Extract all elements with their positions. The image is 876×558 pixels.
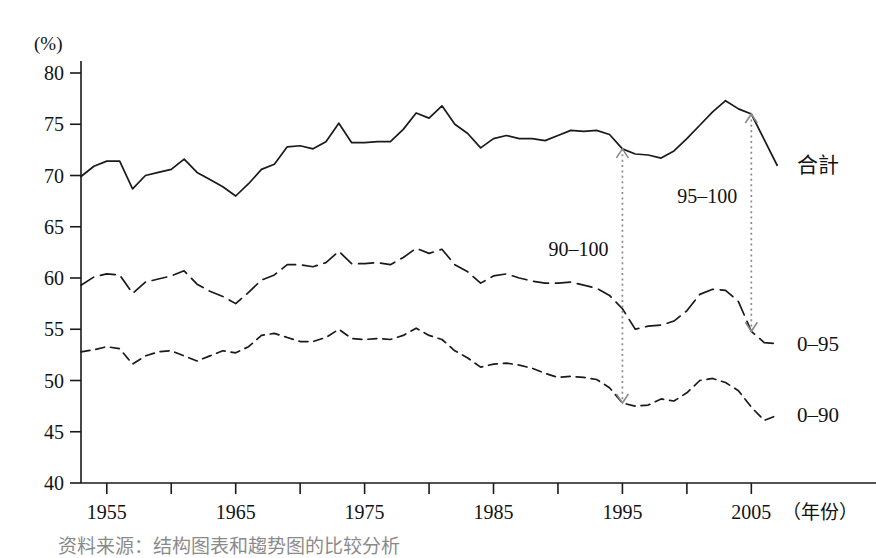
x-tick-label: 2005: [731, 501, 771, 523]
x-axis-ticks: 195519651975198519952005: [87, 483, 772, 523]
figure-caption: 资料来源：结构图表和趨势图的比较分析: [0, 536, 876, 558]
y-tick-label: 65: [44, 216, 64, 238]
annotation-label-1: 95–100: [677, 185, 737, 207]
annotation-arrowhead-bottom-1: [745, 322, 757, 331]
y-tick-label: 80: [44, 62, 64, 84]
caption-text: 资料来源：结构图表和趨势图的比较分析: [58, 536, 400, 558]
line-chart: 404550556065707580 195519651975198519952…: [0, 0, 876, 558]
x-axis-unit-label: （年份）: [782, 501, 858, 523]
series-line-1: [81, 248, 777, 343]
y-tick-label: 70: [44, 165, 64, 187]
series-labels: 合計0–950–90: [797, 153, 839, 427]
y-tick-label: 55: [44, 318, 64, 340]
x-tick-label: 1975: [345, 501, 385, 523]
y-tick-label: 40: [44, 472, 64, 494]
y-axis-unit-label: (%): [34, 33, 62, 55]
y-tick-label: 45: [44, 421, 64, 443]
x-tick-label: 1995: [602, 501, 642, 523]
x-tick-label: 1955: [87, 501, 127, 523]
y-axis-ticks: 404550556065707580: [44, 62, 81, 494]
annotation-arrowhead-top-1: [745, 114, 757, 123]
data-series: [81, 101, 777, 421]
x-tick-label: 1965: [216, 501, 256, 523]
chart-container: 404550556065707580 195519651975198519952…: [0, 0, 876, 558]
annotation-label-0: 90–100: [548, 238, 608, 260]
y-tick-label: 60: [44, 267, 64, 289]
y-tick-label: 75: [44, 113, 64, 135]
series-line-0: [81, 101, 777, 196]
series-line-2: [81, 328, 777, 420]
series-label-2: 0–90: [797, 403, 839, 427]
x-tick-label: 1985: [474, 501, 514, 523]
annotations: 90–10095–100: [548, 114, 757, 403]
series-label-1: 0–95: [797, 332, 839, 356]
y-tick-label: 50: [44, 370, 64, 392]
series-label-0: 合計: [797, 153, 839, 177]
